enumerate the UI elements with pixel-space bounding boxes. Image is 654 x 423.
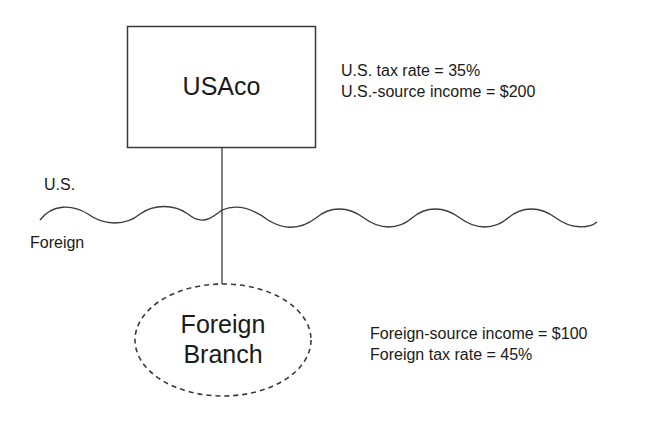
- foreign-tax-rate: Foreign tax rate = 45%: [370, 344, 587, 365]
- branch-facts: Foreign-source income = $100 Foreign tax…: [370, 323, 587, 365]
- us-tax-rate: U.S. tax rate = 35%: [341, 60, 535, 81]
- us-source-income: U.S.-source income = $200: [341, 81, 535, 102]
- us-region-label: U.S.: [44, 176, 75, 194]
- branch-label-line2: Branch: [135, 339, 311, 369]
- foreign-branch-label: Foreign Branch: [135, 309, 311, 369]
- border-wave: [40, 207, 597, 228]
- usaco-facts: U.S. tax rate = 35% U.S.-source income =…: [341, 60, 535, 102]
- foreign-source-income: Foreign-source income = $100: [370, 323, 587, 344]
- usaco-label: USAco: [127, 72, 316, 101]
- foreign-region-label: Foreign: [30, 234, 84, 252]
- branch-label-line1: Foreign: [135, 309, 311, 339]
